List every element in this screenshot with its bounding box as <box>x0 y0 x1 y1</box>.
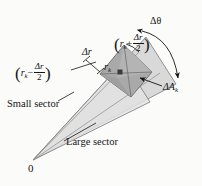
rk-subscript: k <box>108 66 111 73</box>
label-delta-r: Δr <box>82 47 92 57</box>
small-sector-leader <box>58 92 74 101</box>
label-small-sector: Small sector <box>7 99 59 110</box>
label-rk: rk <box>104 62 111 74</box>
close-paren: ) <box>45 64 51 83</box>
fraction-numerator: Δr <box>34 62 45 71</box>
label-large-sector: Large sector <box>66 137 118 148</box>
inner-radius-leader <box>71 62 96 70</box>
close-paren: ) <box>144 35 150 54</box>
delta-area-base: ΔA <box>163 81 175 92</box>
label-outer-radius-expression: (rk+Δr2) <box>114 33 150 54</box>
outer-radius-operator: + <box>127 38 133 49</box>
label-origin: 0 <box>28 163 34 174</box>
label-delta-area: ΔAk <box>163 82 178 94</box>
fraction-denominator: 2 <box>34 73 45 82</box>
inner-radius-fraction: Δr2 <box>34 62 45 83</box>
fraction-numerator: Δr <box>133 33 144 42</box>
polar-sector-figure: Δθ Δr rk ΔAk (rk+Δr2) (rk−Δr2) Small sec… <box>0 0 202 186</box>
fraction-denominator: 2 <box>133 44 144 53</box>
inner-radius-operator: − <box>28 67 34 78</box>
label-delta-theta: Δθ <box>150 16 161 26</box>
rk-point-marker <box>118 70 123 75</box>
delta-area-subscript: k <box>175 86 178 93</box>
delta-theta-text: Δθ <box>150 15 161 26</box>
label-inner-radius-expression: (rk−Δr2) <box>15 62 51 83</box>
delta-r-text: Δr <box>82 46 92 57</box>
outer-radius-fraction: Δr2 <box>133 33 144 54</box>
